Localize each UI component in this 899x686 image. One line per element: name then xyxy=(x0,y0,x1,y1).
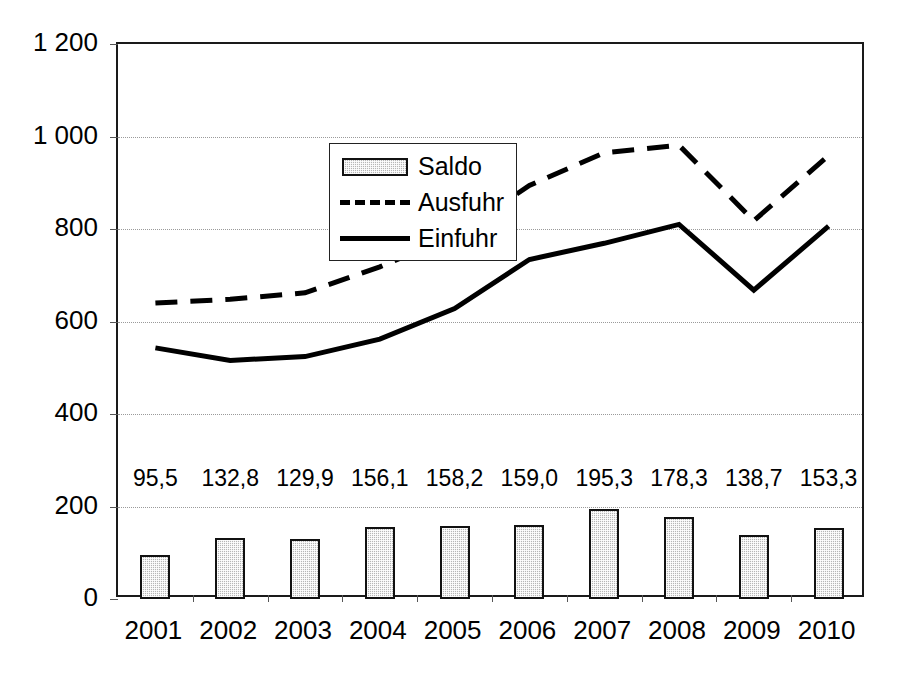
y-tick-mark xyxy=(110,137,118,138)
y-axis-tick-label: 200 xyxy=(55,489,98,520)
y-axis-tick-label: 600 xyxy=(55,304,98,335)
x-axis-tick-label: 2005 xyxy=(424,615,482,646)
legend-label-ausfuhr: Ausfuhr xyxy=(418,188,504,217)
y-axis-tick-label: 1 000 xyxy=(33,119,98,150)
x-axis-tick-label: 2008 xyxy=(648,615,706,646)
bar-swatch-icon xyxy=(336,158,414,176)
dashed-line-swatch-icon xyxy=(336,200,414,205)
legend-label-einfuhr: Einfuhr xyxy=(418,224,497,253)
legend-item-saldo: Saldo xyxy=(330,150,516,183)
plot-area: 95,5132,8129,9156,1158,2159,0195,3178,31… xyxy=(116,42,864,597)
x-axis-tick-label: 2010 xyxy=(798,615,856,646)
y-axis-tick-label: 400 xyxy=(55,397,98,428)
x-axis-tick-label: 2001 xyxy=(124,615,182,646)
y-tick-mark xyxy=(110,414,118,415)
x-axis-tick-label: 2006 xyxy=(498,615,556,646)
line-series-group xyxy=(118,44,866,599)
solid-line-swatch-icon xyxy=(336,236,414,241)
chart-legend: Saldo Ausfuhr Einfuhr xyxy=(329,143,517,261)
y-axis-tick-label: 800 xyxy=(55,212,98,243)
legend-label-saldo: Saldo xyxy=(418,152,482,181)
y-tick-mark xyxy=(110,599,118,600)
y-tick-mark xyxy=(110,44,118,45)
y-tick-mark xyxy=(110,229,118,230)
chart-canvas: 95,5132,8129,9156,1158,2159,0195,3178,31… xyxy=(0,0,899,686)
y-tick-mark xyxy=(110,507,118,508)
x-axis-tick-label: 2003 xyxy=(274,615,332,646)
legend-item-ausfuhr: Ausfuhr xyxy=(330,186,516,219)
y-axis-tick-label: 0 xyxy=(84,582,98,613)
y-tick-mark xyxy=(110,322,118,323)
y-axis-tick-label: 1 200 xyxy=(33,27,98,58)
legend-item-einfuhr: Einfuhr xyxy=(330,222,516,255)
x-axis-tick-label: 2002 xyxy=(199,615,257,646)
x-axis-tick-label: 2009 xyxy=(723,615,781,646)
x-axis-tick-label: 2004 xyxy=(349,615,407,646)
x-axis-tick-label: 2007 xyxy=(573,615,631,646)
